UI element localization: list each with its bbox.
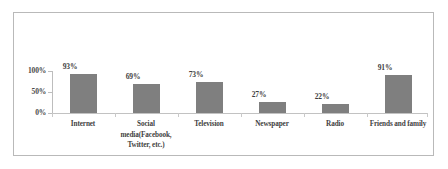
x-axis-line (52, 113, 428, 114)
x-axis-tick (367, 113, 368, 117)
bar-value-newspaper: 27% (236, 90, 282, 99)
bar-friends-family (385, 75, 412, 113)
bar-value-social-media: 69% (110, 72, 156, 81)
bar-newspaper (259, 102, 286, 113)
bar-value-friends-family: 91% (362, 63, 408, 72)
bar-internet (70, 74, 97, 113)
x-axis-category-friends-family: Friends and family (359, 119, 437, 130)
y-axis-label-50-text: 50% (2, 88, 46, 96)
bar-radio (322, 104, 349, 113)
x-axis-tick (304, 113, 305, 117)
x-axis-category-social-media-line3: Twitter, etc.) (107, 140, 185, 151)
bar-value-radio: 22% (299, 92, 345, 101)
x-axis-category-social-media-line2: media(Facebook, (107, 130, 185, 141)
bar-chart: 100% 50% 0% 93% 69% 73% 27% 22% 91% Inte… (0, 0, 448, 169)
x-axis-tick (427, 113, 428, 117)
x-axis-tick (52, 113, 53, 117)
x-axis-tick (115, 113, 116, 117)
x-axis-tick (178, 113, 179, 117)
x-axis-tick (241, 113, 242, 117)
bar-value-internet: 93% (47, 62, 93, 71)
x-axis-category-friends-family-line1: Friends and family (359, 119, 437, 130)
y-axis-label-100-text: 100% (2, 67, 46, 75)
bar-value-television: 73% (173, 70, 219, 79)
y-axis-label-0-text: 0% (2, 109, 46, 117)
bar-television (196, 82, 223, 113)
bar-social-media (133, 84, 160, 113)
